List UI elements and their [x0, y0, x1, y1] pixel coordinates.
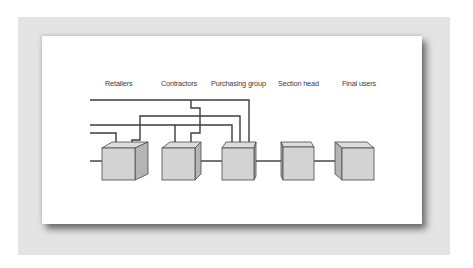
node-purchasing-group — [222, 142, 256, 180]
wire-a-branch-to-contractors — [191, 100, 200, 146]
label-retailers: Retailers — [105, 79, 133, 88]
node-section-head — [281, 142, 314, 180]
label-final-users: Final users — [342, 79, 377, 88]
label-purchasing-group: Purchasing group — [211, 79, 266, 88]
label-section-head: Section head — [278, 79, 319, 88]
node-contractors — [162, 142, 201, 180]
node-retailers — [102, 142, 148, 180]
node-final-users — [335, 142, 374, 180]
flow-diagram: Retailers Contractors Purchasing group S… — [0, 0, 473, 268]
label-contractors: Contractors — [161, 79, 198, 88]
wire-a-to-purchasing — [90, 100, 249, 145]
